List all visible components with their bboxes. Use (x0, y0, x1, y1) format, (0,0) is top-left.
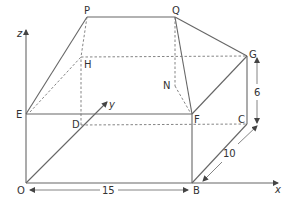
label-G: G (249, 49, 257, 60)
edge-HG (81, 56, 247, 57)
edge-EH (30, 57, 81, 112)
label-N: N (163, 80, 170, 91)
label-y-axis: y (108, 99, 116, 110)
dim-10-up (238, 126, 257, 144)
edge-FG (192, 56, 247, 114)
edge-QF (175, 17, 192, 114)
label-x-axis: x (274, 184, 281, 195)
label-B: B (193, 185, 200, 196)
label-O: O (17, 185, 25, 196)
dim-label-15: 15 (102, 185, 115, 196)
label-D: D (72, 119, 80, 130)
label-P: P (84, 5, 90, 16)
edge-PH (81, 17, 87, 57)
dim-label-10: 10 (223, 148, 236, 159)
label-Q: Q (172, 5, 180, 16)
label-F: F (194, 114, 200, 125)
label-E: E (16, 109, 22, 120)
dim-10-down (203, 162, 222, 181)
label-z-axis: z (16, 28, 23, 39)
dim-label-6: 6 (254, 87, 260, 98)
diagram-canvas: O B C D E F G H P Q N x y z 15 6 10 (0, 0, 291, 202)
label-H: H (84, 59, 92, 70)
edge-EP (26, 17, 87, 114)
edge-DC (81, 124, 247, 125)
label-C: C (238, 114, 245, 125)
edge-BC (192, 124, 247, 183)
cuboid-diagram: O B C D E F G H P Q N x y z 15 6 10 (0, 0, 291, 202)
edge-QG (175, 17, 247, 56)
